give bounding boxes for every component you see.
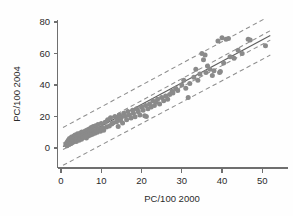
y-axis-tick-label-20: 20 — [39, 111, 50, 122]
data-point — [203, 53, 208, 58]
y-axis-tick-label-0: 0 — [45, 142, 50, 153]
x-axis-title: PC/100 2000 — [144, 193, 199, 204]
data-point — [248, 38, 253, 43]
data-point — [120, 121, 125, 126]
data-point — [179, 83, 184, 88]
data-point — [236, 48, 241, 53]
y-axis-tick-label-60: 60 — [39, 48, 50, 59]
data-point — [116, 124, 121, 129]
data-point — [211, 68, 216, 73]
data-point — [144, 114, 149, 119]
data-point — [232, 56, 237, 61]
data-point — [215, 38, 220, 43]
data-point — [203, 70, 208, 75]
data-point — [170, 90, 175, 95]
x-axis-tick-label-0: 0 — [58, 175, 63, 186]
data-point — [226, 36, 231, 41]
data-point — [181, 78, 186, 83]
data-point — [263, 43, 268, 48]
data-point — [183, 86, 188, 91]
x-axis-tick-label-30: 30 — [176, 175, 187, 186]
plot-canvas: 02040608001020304050PC/100 2000PC/100 20… — [0, 0, 293, 216]
y-axis-tick-label-80: 80 — [39, 16, 50, 27]
data-point — [210, 73, 215, 78]
x-axis-tick-label-20: 20 — [136, 175, 147, 186]
data-point — [187, 81, 192, 86]
data-point — [165, 97, 170, 102]
confidence-band-line-2 — [63, 18, 266, 128]
x-axis-tick-label-40: 40 — [217, 175, 228, 186]
data-point — [218, 69, 223, 74]
data-point — [201, 57, 206, 62]
data-point — [195, 78, 200, 83]
data-point — [193, 67, 198, 72]
data-point — [141, 108, 146, 113]
y-axis-title: PC/100 2004 — [11, 66, 22, 121]
data-point — [186, 95, 191, 100]
data-point — [133, 114, 138, 119]
y-axis-tick-label-40: 40 — [39, 79, 50, 90]
scatter-plot-figure: 02040608001020304050PC/100 2000PC/100 20… — [0, 0, 293, 216]
data-point — [157, 101, 162, 106]
data-point — [197, 71, 202, 76]
data-point — [221, 60, 226, 65]
data-point — [137, 112, 142, 117]
data-point — [175, 88, 180, 93]
x-axis-tick-label-10: 10 — [96, 175, 107, 186]
x-axis-tick-label-50: 50 — [257, 175, 268, 186]
data-point — [191, 75, 196, 80]
data-point — [124, 117, 129, 122]
data-point — [240, 51, 245, 56]
data-point — [108, 115, 113, 120]
